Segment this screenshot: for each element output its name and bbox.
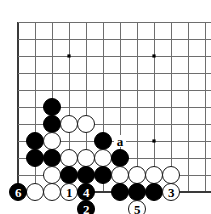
stone-move-4[interactable]: 4: [77, 183, 95, 201]
stone-move-6[interactable]: 6: [9, 183, 27, 201]
stone-move-number: 1: [66, 185, 72, 198]
stone-black[interactable]: [111, 149, 129, 167]
stone-black[interactable]: [111, 183, 129, 201]
stone-white[interactable]: [111, 166, 129, 184]
star-point: [67, 54, 70, 57]
stone-move-3[interactable]: 3: [162, 183, 180, 201]
stone-black[interactable]: [94, 132, 112, 150]
stone-black[interactable]: [26, 132, 44, 150]
stone-black[interactable]: [94, 166, 112, 184]
stone-white[interactable]: [77, 149, 95, 167]
stone-white[interactable]: [162, 166, 180, 184]
stone-move-1[interactable]: 1: [60, 183, 78, 201]
go-board-diagram: 614325 a: [0, 0, 211, 214]
stone-white[interactable]: [43, 183, 61, 201]
stone-white[interactable]: [26, 183, 44, 201]
stone-move-5[interactable]: 5: [128, 200, 146, 214]
stone-black[interactable]: [26, 149, 44, 167]
stone-black[interactable]: [77, 166, 95, 184]
stone-black[interactable]: [43, 149, 61, 167]
board-marker-a: a: [114, 135, 126, 147]
stone-move-number: 5: [134, 202, 140, 214]
stone-white[interactable]: [43, 166, 61, 184]
stone-white[interactable]: [60, 115, 78, 133]
star-point: [152, 54, 155, 57]
stone-black[interactable]: [43, 115, 61, 133]
stone-move-number: 6: [15, 185, 21, 198]
stone-black[interactable]: [145, 183, 163, 201]
stone-white[interactable]: [128, 166, 146, 184]
stone-black[interactable]: [43, 98, 61, 116]
stone-move-number: 2: [83, 202, 89, 214]
star-point: [152, 139, 155, 142]
stone-white[interactable]: [77, 115, 95, 133]
stone-move-2[interactable]: 2: [77, 200, 95, 214]
stone-black[interactable]: [60, 166, 78, 184]
stone-move-number: 3: [168, 185, 174, 198]
stone-white[interactable]: [145, 166, 163, 184]
stone-white[interactable]: [94, 149, 112, 167]
stone-white[interactable]: [43, 132, 61, 150]
stone-white[interactable]: [60, 149, 78, 167]
stone-black[interactable]: [128, 183, 146, 201]
stone-move-number: 4: [83, 185, 89, 198]
